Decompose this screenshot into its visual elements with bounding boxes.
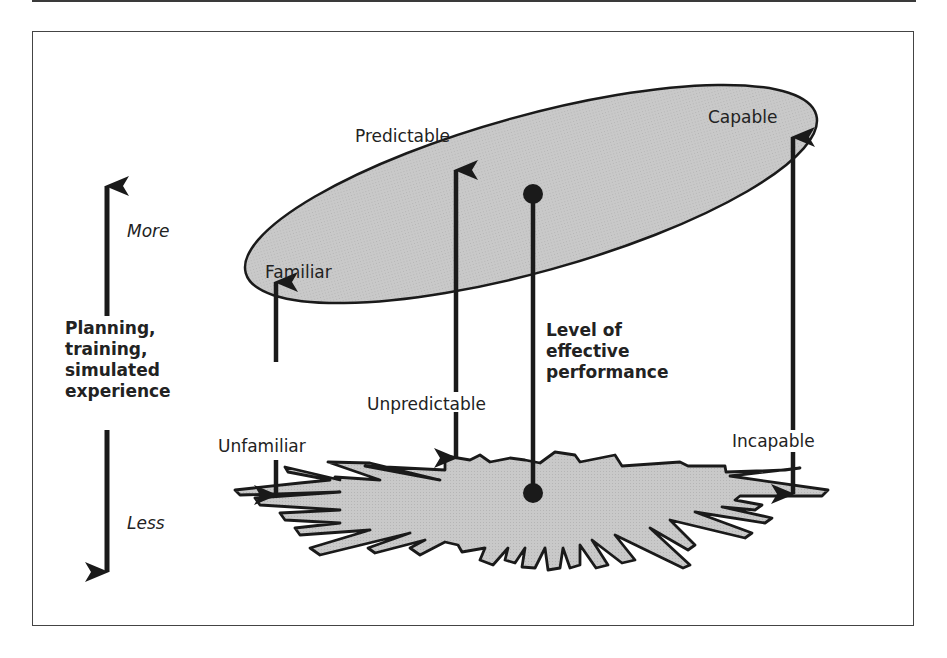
performance-label-line-1: Level of <box>546 320 668 340</box>
performance-bottom-dot <box>523 483 543 503</box>
performance-label: Level of effective performance <box>546 320 668 380</box>
capable-label: Capable <box>708 107 777 127</box>
axis-title-line-2: training, <box>65 339 171 359</box>
axis-title: Planning, training, simulated experience <box>65 318 171 398</box>
axis-title-line-1: Planning, <box>65 318 171 338</box>
more-label: More <box>127 221 170 241</box>
familiar-label: Familiar <box>265 262 332 282</box>
axis-title-line-3: simulated <box>65 360 171 380</box>
unfamiliar-label: Unfamiliar <box>218 436 306 456</box>
performance-top-dot <box>523 184 543 204</box>
less-label: Less <box>127 513 165 533</box>
performance-label-line-2: effective <box>546 341 668 361</box>
axis-title-line-4: experience <box>65 381 171 401</box>
performance-label-line-3: performance <box>546 362 668 382</box>
unpredictable-label: Unpredictable <box>367 394 486 414</box>
incapable-label: Incapable <box>732 431 815 451</box>
predictable-label: Predictable <box>355 126 450 146</box>
